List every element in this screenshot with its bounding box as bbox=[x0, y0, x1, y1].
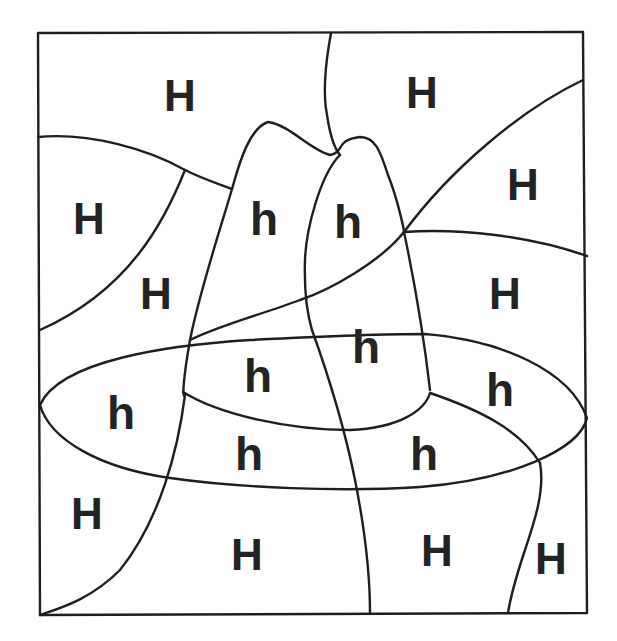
region-label: h bbox=[410, 431, 438, 477]
region-divider bbox=[404, 231, 587, 256]
hat-crown-front-right bbox=[404, 232, 430, 390]
color-by-letter-worksheet: H H H H h h H H h h h h h h H H H H bbox=[0, 0, 617, 641]
hat-line-drawing bbox=[0, 0, 617, 641]
region-label: H bbox=[140, 272, 172, 316]
region-divider bbox=[325, 33, 340, 155]
region-label: H bbox=[421, 529, 453, 573]
region-label: H bbox=[164, 74, 196, 118]
hat-crown-left bbox=[183, 189, 232, 396]
region-divider bbox=[38, 136, 232, 189]
region-label: h bbox=[334, 199, 362, 245]
region-label: h bbox=[244, 353, 272, 399]
region-label: h bbox=[486, 367, 514, 413]
region-label: H bbox=[406, 71, 438, 115]
region-label: h bbox=[250, 196, 278, 242]
region-divider bbox=[190, 80, 583, 340]
region-label: h bbox=[352, 324, 380, 370]
region-label: H bbox=[507, 163, 539, 207]
region-label: H bbox=[73, 197, 105, 241]
frame-border bbox=[38, 32, 587, 615]
region-label: h bbox=[107, 390, 135, 436]
region-label: H bbox=[71, 492, 103, 536]
region-label: H bbox=[231, 533, 263, 577]
region-label: H bbox=[489, 272, 521, 316]
region-label: h bbox=[235, 431, 263, 477]
region-label: H bbox=[535, 537, 567, 581]
